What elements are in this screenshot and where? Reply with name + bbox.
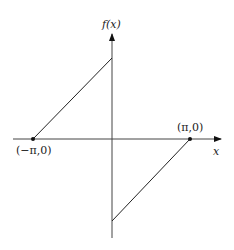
chart: f(x) x (−π,0) (π,0) bbox=[0, 0, 234, 250]
y-axis-label: f(x) bbox=[101, 18, 121, 31]
right-point-marker bbox=[188, 137, 192, 141]
left-point-marker bbox=[31, 137, 35, 141]
left-point-label: (−π,0) bbox=[16, 144, 52, 157]
right-point-label: (π,0) bbox=[177, 121, 203, 134]
right-segment bbox=[112, 139, 190, 221]
left-segment bbox=[33, 58, 112, 139]
x-axis-label: x bbox=[213, 145, 220, 158]
